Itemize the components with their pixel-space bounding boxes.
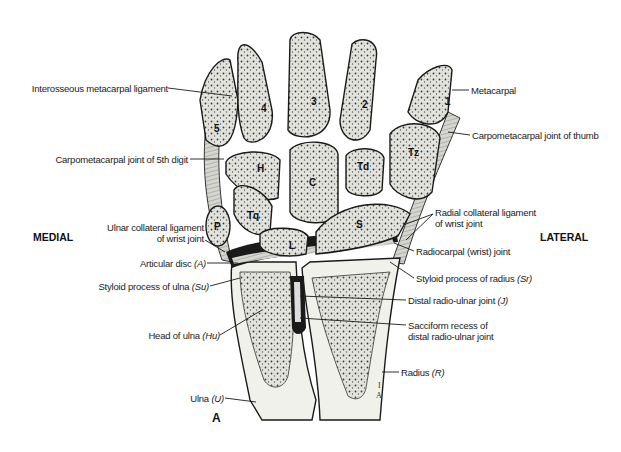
label-ulna: Ulna (U)	[150, 393, 224, 404]
label-styloid-process-ulna: Styloid process of ulna (Su)	[60, 281, 209, 292]
panel-letter: A	[212, 411, 221, 425]
svg-text:3: 3	[311, 96, 317, 107]
label-articular-disc: Articular disc (A)	[80, 258, 206, 269]
label-lateral: LATERAL	[540, 231, 588, 243]
label-radial-collateral-ligament-line2: of wrist joint	[435, 218, 482, 229]
label-sacciform-recess-line1: Sacciform recess of	[408, 320, 488, 331]
svg-text:L: L	[289, 240, 295, 251]
radius-bone	[302, 258, 400, 420]
svg-text:I: I	[378, 381, 381, 390]
svg-text:1: 1	[445, 96, 451, 107]
label-interosseous-metacarpal-ligament: Interosseous metacarpal ligament	[30, 83, 168, 94]
label-distal-radio-ulnar-joint: Distal radio-ulnar joint (J)	[408, 295, 508, 306]
svg-text:A: A	[376, 391, 382, 400]
label-ulnar-collateral-ligament-line2: of wrist joint	[80, 233, 204, 244]
label-medial: MEDIAL	[33, 231, 73, 243]
label-carpometacarpal-joint-5th-digit: Carpometacarpal joint of 5th digit	[30, 154, 188, 165]
svg-text:4: 4	[261, 103, 267, 114]
label-carpometacarpal-joint-thumb: Carpometacarpal joint of thumb	[472, 130, 599, 141]
label-radiocarpal-joint: Radiocarpal (wrist) joint	[416, 246, 510, 257]
svg-text:Tz: Tz	[408, 147, 419, 158]
svg-text:2: 2	[362, 99, 368, 110]
label-radius: Radius (R)	[401, 367, 444, 378]
label-metacarpal: Metacarpal	[471, 85, 516, 96]
svg-text:C: C	[309, 177, 316, 188]
svg-text:H: H	[257, 163, 264, 174]
svg-text:Tq: Tq	[247, 210, 259, 221]
label-head-of-ulna: Head of ulna (Hu)	[100, 330, 220, 341]
svg-text:P: P	[214, 221, 221, 232]
svg-text:S: S	[356, 219, 363, 230]
label-ulnar-collateral-ligament-line1: Ulnar collateral ligament	[80, 222, 204, 233]
label-radial-collateral-ligament-line1: Radial collateral ligament	[435, 207, 536, 218]
label-styloid-process-radius: Styloid process of radius (Sr)	[416, 273, 532, 284]
svg-text:Td: Td	[357, 161, 369, 172]
label-sacciform-recess-line2: distal radio-ulnar joint	[408, 331, 494, 342]
svg-text:5: 5	[214, 123, 220, 134]
